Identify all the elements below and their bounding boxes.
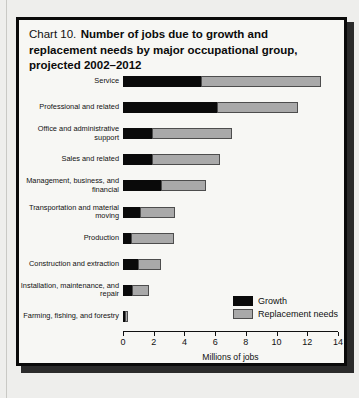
bar-segment-growth <box>123 180 161 191</box>
bar-segment-replacement <box>125 311 128 322</box>
x-axis-title: Millions of jobs <box>123 352 338 362</box>
x-axis-tick-label: 10 <box>266 337 288 347</box>
legend-item-growth: Growth <box>233 296 338 306</box>
plot-area: ServiceProfessional and relatedOffice an… <box>19 73 344 365</box>
bar-segment-growth <box>123 154 152 165</box>
x-axis-tick <box>277 332 278 336</box>
x-axis-line <box>123 331 338 332</box>
category-label: Farming, fishing, and forestry <box>19 312 119 321</box>
category-label: Professional and related <box>19 103 119 112</box>
chart-legend: Growth Replacement needs <box>233 296 338 322</box>
bar-segment-replacement <box>161 180 206 191</box>
x-axis-tick <box>307 332 308 336</box>
bar-segment-replacement <box>201 76 321 87</box>
category-label: Installation, maintenance, and repair <box>19 282 119 299</box>
category-label: Construction and extraction <box>19 260 119 269</box>
x-axis-tick-label: 14 <box>327 337 349 347</box>
bars-region <box>123 73 338 330</box>
bar-segment-replacement <box>138 259 161 270</box>
bar-segment-replacement <box>140 207 175 218</box>
x-axis-tick-label: 4 <box>173 337 195 347</box>
bar-segment-growth <box>123 76 201 87</box>
legend-item-replacement: Replacement needs <box>233 309 338 319</box>
bar-segment-growth <box>123 233 131 244</box>
bar-segment-growth <box>123 102 217 113</box>
bar-segment-growth <box>123 207 140 218</box>
x-axis-tick <box>215 332 216 336</box>
gray-swatch-icon <box>233 309 253 319</box>
bar-segment-replacement <box>152 128 232 139</box>
legend-label-replacement: Replacement needs <box>258 309 338 319</box>
bar-segment-growth <box>123 128 152 139</box>
category-axis-labels: ServiceProfessional and relatedOffice an… <box>19 73 122 330</box>
category-label: Production <box>19 234 119 243</box>
x-axis-tick <box>154 332 155 336</box>
bar-segment-replacement <box>131 233 174 244</box>
x-axis-tick-label: 0 <box>112 337 134 347</box>
legend-label-growth: Growth <box>258 296 287 306</box>
category-label: Management, business, and financial <box>19 177 119 194</box>
bar-segment-replacement <box>152 154 220 165</box>
category-label: Transportation and material moving <box>19 204 119 221</box>
chart-figure: Chart 10. Number of jobs due to growth a… <box>16 17 347 366</box>
bar-segment-replacement <box>217 102 298 113</box>
x-axis-tick-label: 6 <box>204 337 226 347</box>
x-axis-tick-label: 2 <box>143 337 165 347</box>
x-axis-tick <box>338 332 339 336</box>
category-label: Office and administrative support <box>19 125 119 142</box>
x-axis-tick <box>184 332 185 336</box>
x-axis-tick <box>123 332 124 336</box>
bar-segment-growth <box>123 285 132 296</box>
bar-segment-growth <box>123 259 138 270</box>
x-axis-tick-label: 12 <box>296 337 318 347</box>
category-label: Sales and related <box>19 155 119 164</box>
chart-title: Chart 10. Number of jobs due to growth a… <box>29 26 336 73</box>
page-gutter-line <box>6 0 7 398</box>
x-axis-tick-label: 8 <box>235 337 257 347</box>
x-axis-tick <box>246 332 247 336</box>
bar-segment-replacement <box>132 285 149 296</box>
category-label: Service <box>19 77 119 86</box>
black-swatch-icon <box>233 296 253 306</box>
chart-title-prefix: Chart 10. <box>29 28 76 40</box>
